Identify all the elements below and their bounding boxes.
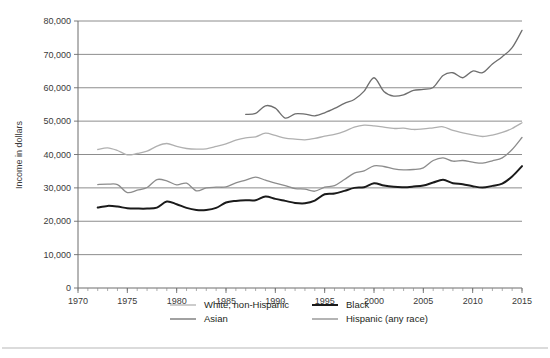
legend-label: Asian — [204, 313, 228, 324]
y-tick-label: 20,000 — [43, 216, 71, 226]
x-tick-label: 2015 — [512, 296, 532, 306]
x-tick-label: 2010 — [463, 296, 483, 306]
data-series-group — [98, 30, 522, 210]
legend-label: Black — [346, 299, 369, 310]
gridlines-group — [78, 21, 522, 255]
y-tick-label: 0 — [66, 283, 71, 293]
chart-canvas: 010,00020,00030,00040,00050,00060,00070,… — [0, 0, 550, 358]
legend-label: White, non-Hispanic — [204, 299, 289, 310]
y-tick-label: 60,000 — [43, 83, 71, 93]
y-tick-label: 50,000 — [43, 116, 71, 126]
y-tick-label: 70,000 — [43, 50, 71, 60]
y-tick-label: 10,000 — [43, 250, 71, 260]
y-axis-title: Income in dollars — [14, 120, 24, 189]
series-line — [246, 30, 522, 118]
y-tick-label: 80,000 — [43, 16, 71, 26]
chart-legend: White, non-HispanicBlackAsianHispanic (a… — [170, 299, 428, 324]
legend-item: White, non-Hispanic — [170, 299, 289, 310]
x-tick-label: 2005 — [413, 296, 433, 306]
x-axis-group: 1970197519801985199019952000200520102015 — [68, 288, 532, 306]
y-tick-label: 40,000 — [43, 150, 71, 160]
x-tick-label: 1975 — [117, 296, 137, 306]
y-tick-label: 30,000 — [43, 183, 71, 193]
y-axis-group: 010,00020,00030,00040,00050,00060,00070,… — [43, 16, 78, 293]
legend-item: Hispanic (any race) — [312, 313, 428, 324]
x-tick-label: 1970 — [68, 296, 88, 306]
series-line — [98, 123, 522, 155]
income-by-race-line-chart: 010,00020,00030,00040,00050,00060,00070,… — [0, 0, 550, 358]
legend-item: Asian — [170, 313, 228, 324]
legend-label: Hispanic (any race) — [346, 313, 428, 324]
